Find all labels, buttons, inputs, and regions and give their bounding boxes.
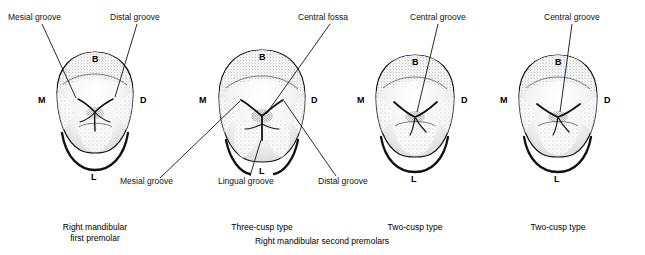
mark-buccal-1: B: [92, 55, 99, 64]
label-distal-groove-2: Distal groove: [318, 176, 368, 186]
label-mesial-groove-1: Mesial groove: [8, 12, 61, 22]
tooth-illustrations: [0, 0, 645, 255]
caption-tooth-1-line1: Right mandibular: [30, 222, 160, 233]
mark-distal-2: D: [311, 96, 318, 105]
tooth-4-drawing: [518, 55, 598, 172]
leader-mesial-groove-2: [160, 101, 240, 178]
mark-mesial-3: M: [357, 96, 365, 105]
tooth-3-drawing: [375, 55, 455, 172]
mark-buccal-3: B: [412, 58, 419, 67]
mark-mesial-1: M: [38, 96, 46, 105]
caption-tooth-1-line2: first premolar: [30, 233, 160, 244]
tooth-2-drawing: [218, 50, 306, 174]
mark-lingual-3: L: [411, 175, 417, 184]
mark-mesial-4: M: [500, 96, 508, 105]
caption-tooth-2: Three-cusp type: [202, 222, 322, 233]
mark-distal-4: D: [604, 96, 611, 105]
leader-lines: [42, 24, 572, 178]
tooth-1-drawing: [56, 52, 134, 170]
label-mesial-groove-2: Mesial groove: [120, 176, 173, 186]
caption-group: Right mandibular second premolars: [222, 236, 422, 247]
caption-tooth-4: Two-cusp type: [500, 222, 616, 233]
leader-distal-groove-2: [284, 101, 336, 176]
figure-root: Mesial groove Distal groove Central foss…: [0, 0, 645, 255]
mark-buccal-2: B: [259, 53, 266, 62]
caption-tooth-3: Two-cusp type: [357, 222, 473, 233]
leader-central-groove-4: [560, 24, 572, 112]
leader-distal-groove-1: [115, 24, 137, 97]
mark-lingual-2: L: [259, 167, 265, 176]
mark-buccal-4: B: [555, 58, 562, 67]
label-lingual-groove-2: Lingual groove: [218, 176, 274, 186]
mark-lingual-1: L: [91, 173, 97, 182]
mark-distal-1: D: [140, 96, 147, 105]
leader-central-fossa: [266, 24, 330, 114]
mark-lingual-4: L: [554, 175, 560, 184]
label-distal-groove-1: Distal groove: [110, 12, 160, 22]
mark-distal-3: D: [461, 96, 468, 105]
label-central-groove-3: Central groove: [410, 12, 466, 22]
mark-mesial-2: M: [199, 96, 207, 105]
leader-mesial-groove-1: [42, 24, 76, 98]
label-central-groove-4: Central groove: [544, 12, 600, 22]
leader-central-groove-3: [417, 24, 438, 112]
label-central-fossa: Central fossa: [298, 12, 348, 22]
